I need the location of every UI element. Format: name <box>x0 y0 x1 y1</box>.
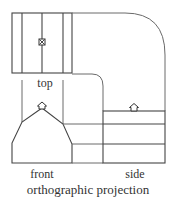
side-view <box>103 104 165 164</box>
front-view-label: front <box>30 167 54 181</box>
side-view-outline <box>103 111 165 163</box>
orthographic-projection-diagram: top front side orthographic projection <box>0 0 174 205</box>
vent-cupola-icon <box>38 102 47 109</box>
top-view <box>12 13 72 73</box>
miter-arc-outer <box>72 13 165 111</box>
side-view-label: side <box>125 167 144 181</box>
top-view-label: top <box>37 76 52 90</box>
vent-cupola-icon <box>130 104 139 112</box>
vent-square-x-icon <box>39 39 45 45</box>
diagram-title: orthographic projection <box>27 182 150 197</box>
miter-arc-inner <box>72 74 103 111</box>
